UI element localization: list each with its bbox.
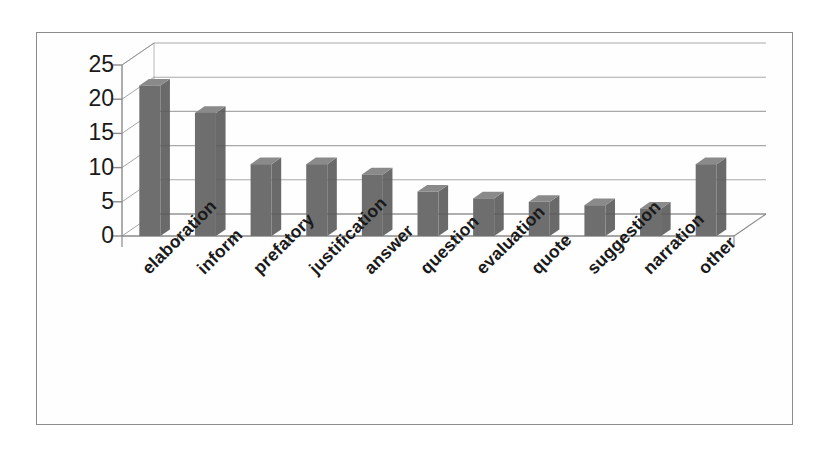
x-axis-label-prefatory: prefatory: [249, 209, 319, 279]
x-axis-label-quote: quote: [527, 230, 576, 279]
x-axis-category-labels: elaborationinformprefatoryjustificationa…: [0, 0, 827, 449]
x-axis-label-inform: inform: [193, 225, 247, 279]
x-axis-label-other: other: [694, 232, 740, 278]
x-axis-label-question: question: [416, 211, 484, 279]
